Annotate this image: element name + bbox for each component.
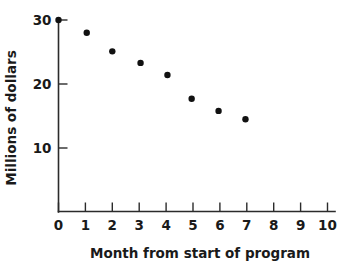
x-axis-tick-label: 5: [188, 217, 197, 233]
data-point: [164, 72, 170, 78]
scatter-chart: 102030 012345678910 Month from start of …: [0, 0, 347, 268]
data-point-group: [55, 17, 248, 123]
y-axis-title: Millions of dollars: [3, 50, 19, 185]
x-axis-tick-label: 6: [215, 217, 224, 233]
x-axis-tick-label: 0: [54, 217, 63, 233]
data-point: [188, 96, 194, 102]
data-point: [215, 108, 221, 114]
y-axis-tick-label: 30: [33, 12, 52, 28]
data-point: [242, 116, 248, 122]
data-point: [84, 30, 90, 36]
x-axis-tick-label: 4: [161, 217, 170, 233]
y-axis-tick-labels: 102030: [33, 12, 52, 156]
x-axis-tick-label: 8: [269, 217, 278, 233]
y-axis-tick-label: 20: [33, 76, 52, 92]
x-axis-tick-label: 2: [108, 217, 117, 233]
data-point: [55, 17, 61, 23]
x-axis-tick-label: 7: [242, 217, 251, 233]
x-axis-tick-label: 1: [81, 217, 90, 233]
x-axis-tick-label: 10: [318, 217, 337, 233]
x-axis-tick-labels: 012345678910: [54, 217, 337, 233]
chart-canvas: 102030 012345678910 Month from start of …: [0, 0, 347, 268]
y-axis-ticks: [59, 20, 68, 148]
data-point: [109, 48, 115, 54]
x-axis-ticks: [59, 203, 328, 212]
data-point: [137, 60, 143, 66]
x-axis-tick-label: 3: [134, 217, 143, 233]
y-axis-tick-label: 10: [33, 140, 52, 156]
x-axis-tick-label: 9: [296, 217, 305, 233]
x-axis-title: Month from start of program: [90, 245, 310, 261]
